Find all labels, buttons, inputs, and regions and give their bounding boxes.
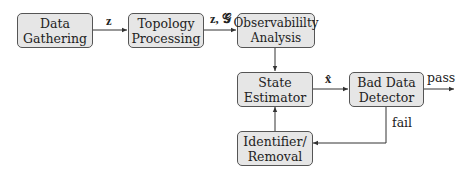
node-label-line: State [258,75,291,90]
node-label-line: Removal [248,149,303,164]
node-label-line: Bad Data [357,75,416,90]
node-bad-data-detector: Bad Data Detector [349,72,424,107]
node-label-line: Analysis [251,31,301,46]
node-label-line: Identifier/ [243,134,306,149]
edge-label-fail: fail [392,115,412,130]
node-label-line: Gathering [23,31,87,46]
node-label-line: Observabililty [233,16,318,31]
node-observability-analysis: Observabililty Analysis [237,13,315,48]
node-label-line: Data [40,16,70,31]
node-state-estimator: State Estimator [237,72,313,107]
node-topology-processing: Topology Processing [128,13,204,48]
node-data-gathering: Data Gathering [17,13,93,48]
edge-label-pass: pass [427,70,455,85]
edge-label-x-hat: x̂ [325,72,331,87]
node-label-line: Topology [137,16,194,31]
edge-label-z: z [106,14,112,29]
node-label-line: Estimator [244,90,306,105]
node-identifier-removal: Identifier/ Removal [237,131,313,166]
node-label-line: Detector [359,90,414,105]
edge-label-z-g: z, 𝒢 [210,12,231,27]
edge-detector-fail [313,106,386,143]
node-label-line: Processing [131,31,200,46]
